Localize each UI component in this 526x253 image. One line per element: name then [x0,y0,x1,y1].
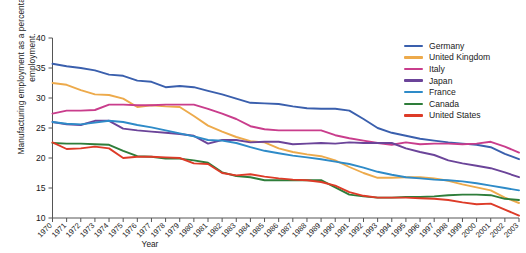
legend-color-swatch [404,56,423,58]
legend-color-swatch [404,79,423,81]
legend-item[interactable]: Italy [404,63,490,75]
y-axis-ticks: 10152025303540 [36,33,53,223]
legend-item[interactable]: United States [404,110,490,122]
legend-label: United Kingdom [429,52,490,62]
y-tick-label: 40 [36,33,46,43]
series-line-united-states [53,142,520,215]
line-chart: 10152025303540 1970197119721973197419751… [0,0,526,253]
y-tick-label: 10 [36,213,46,223]
series-line-canada [53,143,520,200]
legend-label: Japan [429,76,452,86]
legend-label: France [429,87,456,97]
y-tick-label: 20 [36,153,46,163]
legend-color-swatch [404,103,423,105]
legend-item[interactable]: Japan [404,75,490,87]
y-tick-label: 15 [36,183,46,193]
y-tick-label: 35 [36,63,46,73]
legend-item[interactable]: Germany [404,40,490,52]
legend-item[interactable]: France [404,86,490,98]
legend-item[interactable]: United Kingdom [404,52,490,64]
legend-color-swatch [404,114,423,116]
legend-color-swatch [404,91,423,93]
series-line-japan [53,121,520,177]
x-tick-label: 2003 [502,221,520,239]
x-axis-title: Year [0,239,300,249]
chart-legend: GermanyUnited KingdomItalyJapanFranceCan… [404,40,490,121]
legend-item[interactable]: Canada [404,98,490,110]
legend-label: Germany [429,41,464,51]
x-axis-ticks: 1970197119721973197419751976197719781979… [36,218,521,239]
plot-area: 10152025303540 1970197119721973197419751… [0,0,526,253]
y-axis-title: Manufacturing employment as a percentage… [16,0,37,158]
legend-color-swatch [404,68,423,70]
y-tick-label: 25 [36,123,46,133]
legend-color-swatch [404,45,423,47]
legend-label: Canada [429,99,459,109]
legend-label: Italy [429,64,445,74]
legend-label: United States [429,110,481,120]
y-tick-label: 30 [36,93,46,103]
